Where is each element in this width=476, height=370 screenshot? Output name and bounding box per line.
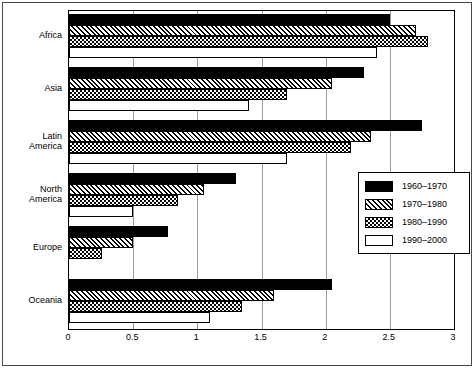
x-tick-label: 0 — [65, 332, 70, 343]
legend-item: 1980–1990 — [365, 214, 463, 230]
y-axis-label: Asia — [0, 83, 62, 93]
bar-row — [69, 153, 454, 164]
bar-group-asia — [69, 67, 454, 111]
bar — [69, 290, 274, 301]
bar-row — [69, 89, 454, 100]
bar-row — [69, 131, 454, 142]
bar-row — [69, 301, 454, 312]
x-tick-label: 2 — [322, 332, 327, 343]
bar — [69, 100, 249, 111]
y-axis-label: Oceania — [0, 295, 62, 305]
legend-swatch — [365, 181, 393, 192]
bar — [69, 248, 102, 259]
x-tick-label: 0.5 — [126, 332, 139, 343]
legend-label: 1970–1980 — [402, 199, 447, 210]
legend-item: 1970–1980 — [365, 196, 463, 212]
bar — [69, 195, 178, 206]
bar — [69, 36, 428, 47]
bar-row — [69, 120, 454, 131]
bar-row — [69, 25, 454, 36]
x-tick-label: 3 — [450, 332, 455, 343]
bar — [69, 312, 210, 323]
bar-row — [69, 47, 454, 58]
bar — [69, 131, 371, 142]
bar — [69, 67, 364, 78]
bar-row — [69, 312, 454, 323]
bar-row — [69, 259, 454, 270]
legend-swatch — [365, 235, 393, 246]
bar — [69, 153, 287, 164]
bar — [69, 206, 133, 217]
legend-item: 1990–2000 — [365, 232, 463, 248]
x-tick-label: 1.5 — [254, 332, 267, 343]
bar-chart-figure: AfricaAsiaLatinAmericaNorthAmericaEurope… — [0, 0, 476, 370]
bar — [69, 47, 377, 58]
bar — [69, 237, 133, 248]
bar-row — [69, 78, 454, 89]
plot-area — [68, 10, 455, 330]
bar — [69, 142, 351, 153]
legend-item: 1960–1970 — [365, 178, 463, 194]
bar — [69, 14, 390, 25]
x-tick-label: 2.5 — [383, 332, 396, 343]
bar — [69, 226, 168, 237]
legend-swatch — [365, 217, 393, 228]
bar-row — [69, 290, 454, 301]
bar-row — [69, 100, 454, 111]
bar-row — [69, 142, 454, 153]
y-axis-label: Europe — [0, 242, 62, 252]
bar-row — [69, 36, 454, 47]
bar — [69, 301, 242, 312]
bar — [69, 279, 332, 290]
y-axis-label: LatinAmerica — [0, 131, 62, 151]
legend-label: 1960–1970 — [402, 181, 447, 192]
bar-row — [69, 14, 454, 25]
y-axis-label: Africa — [0, 30, 62, 40]
bar — [69, 25, 416, 36]
legend: 1960–19701970–19801980–19901990–2000 — [358, 172, 470, 254]
bar — [69, 184, 204, 195]
legend-label: 1980–1990 — [402, 217, 447, 228]
bar-group-africa — [69, 14, 454, 58]
legend-label: 1990–2000 — [402, 235, 447, 246]
bar-row — [69, 279, 454, 290]
bar — [69, 89, 287, 100]
bar — [69, 173, 236, 184]
bar-row — [69, 67, 454, 78]
bar-group-oceania — [69, 279, 454, 323]
x-tick-label: 1 — [194, 332, 199, 343]
y-axis-label: NorthAmerica — [0, 184, 62, 204]
bar — [69, 120, 422, 131]
bar-group-latin-america — [69, 120, 454, 164]
bar — [69, 78, 332, 89]
x-axis-tick-labels: 00.511.522.53 — [68, 332, 455, 348]
legend-swatch — [365, 199, 393, 210]
y-axis-labels: AfricaAsiaLatinAmericaNorthAmericaEurope… — [0, 10, 62, 330]
